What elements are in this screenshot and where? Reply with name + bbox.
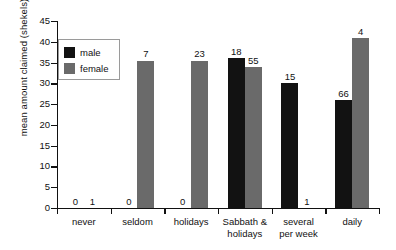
y-tick-label: 40 — [28, 36, 50, 47]
y-tick-label: 15 — [28, 140, 50, 151]
y-tick-label: 10 — [28, 160, 50, 171]
legend-item-male: male — [64, 44, 119, 60]
y-tick-label: 5 — [28, 181, 50, 192]
bar-value-label: 55 — [238, 55, 268, 66]
legend-item-female: female — [64, 60, 119, 76]
x-axis-end-tick — [379, 208, 380, 214]
bar-group: 664 — [325, 21, 379, 208]
bar-value-label: 7 — [131, 48, 161, 59]
x-axis-end-tick — [57, 208, 58, 214]
legend-label-female: female — [80, 63, 109, 74]
bar-value-label: 1 — [77, 196, 107, 207]
bar-group: 151 — [272, 21, 326, 208]
x-tick-mark — [272, 208, 273, 214]
bar-group: 023 — [164, 21, 218, 208]
y-tick-label: 0 — [28, 202, 50, 213]
bar-male — [228, 58, 245, 208]
x-tick-mark — [325, 208, 326, 214]
y-tick-label: 20 — [28, 119, 50, 130]
bar-value-label: 23 — [185, 48, 215, 59]
legend-swatch-male-icon — [64, 47, 75, 58]
legend-label-male: male — [80, 47, 101, 58]
bar-chart: mean amount claimed (shekels) 4540353025… — [0, 0, 396, 250]
bar-value-label: 15 — [275, 71, 305, 82]
y-tick-label: 30 — [28, 77, 50, 88]
chart-legend: male female — [58, 39, 120, 80]
x-tick-mark — [111, 208, 112, 214]
y-axis-title: mean amount claimed (shekels) — [18, 0, 29, 163]
bar-value-label: 1 — [292, 196, 322, 207]
bar-female — [245, 67, 262, 208]
bar-female — [137, 61, 154, 209]
category-label-line: per week — [259, 228, 339, 240]
y-tick-label: 45 — [28, 15, 50, 26]
x-tick-mark — [164, 208, 165, 214]
legend-swatch-female-icon — [64, 63, 75, 74]
bar-male — [335, 100, 352, 208]
bar-female — [352, 38, 369, 208]
category-label-line: daily — [312, 216, 392, 228]
bar-group: 1855 — [218, 21, 272, 208]
bar-value-label: 4 — [346, 26, 376, 37]
bar-female — [191, 61, 208, 209]
x-tick-mark — [218, 208, 219, 214]
category-label: daily — [312, 216, 392, 228]
y-tick-label: 25 — [28, 98, 50, 109]
bar-male — [281, 83, 298, 208]
y-tick-label: 35 — [28, 57, 50, 68]
